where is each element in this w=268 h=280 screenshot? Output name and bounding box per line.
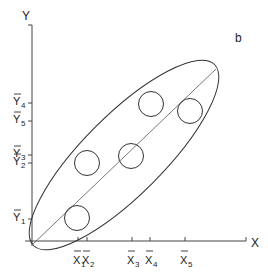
y-tick-label-5: Y5 (13, 112, 26, 128)
svg-text:Y: Y (13, 155, 21, 167)
svg-text:X: X (73, 254, 81, 266)
x-ticks: X1X2X3X4X5 (73, 237, 193, 269)
group-circle-2 (75, 151, 100, 176)
svg-text:3: 3 (135, 260, 140, 269)
x-tick-label-5: X5 (180, 251, 193, 269)
confidence-ellipse (5, 36, 243, 274)
group-circle-1 (65, 206, 90, 231)
group-circles (65, 92, 203, 231)
group-circle-3 (119, 144, 144, 169)
svg-text:Y: Y (13, 113, 21, 125)
x-tick-label-3: X3 (127, 251, 140, 269)
svg-text:X: X (180, 254, 188, 266)
group-circle-4 (139, 92, 164, 117)
x-axis-label: X (251, 236, 259, 250)
svg-text:Y: Y (13, 211, 21, 223)
y-tick-label-4: Y4 (13, 94, 26, 110)
svg-text:2: 2 (90, 260, 95, 269)
regression-line (32, 69, 216, 245)
svg-text:X: X (145, 254, 153, 266)
svg-text:X: X (127, 254, 135, 266)
svg-text:Y: Y (13, 95, 21, 107)
group-circle-5 (178, 99, 203, 124)
svg-text:5: 5 (21, 119, 26, 128)
svg-text:1: 1 (21, 217, 26, 226)
y-ticks: Y4Y5Y3Y2Y1 (13, 94, 32, 226)
svg-text:X: X (82, 254, 90, 266)
svg-text:4: 4 (153, 260, 158, 269)
y-tick-label-1: Y1 (13, 210, 26, 226)
y-axis-label: Y (22, 9, 30, 23)
x-tick-label-4: X4 (145, 251, 158, 269)
panel-label: b (235, 31, 242, 45)
svg-text:5: 5 (188, 260, 193, 269)
svg-text:2: 2 (21, 161, 26, 170)
svg-text:4: 4 (21, 101, 26, 110)
diagram-canvas: Y X b X1X2X3X4X5 Y4Y5Y3Y2Y1 (0, 0, 268, 280)
